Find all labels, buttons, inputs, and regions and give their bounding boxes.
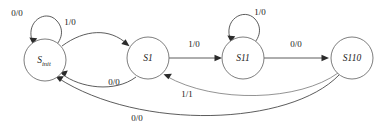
edge-label-s11-self: 1/0 [254, 7, 266, 17]
edge-path-s_init-s1 [62, 33, 127, 46]
state-node-s110[interactable]: S110 [331, 37, 373, 79]
edge-label-s_init-self: 0/0 [11, 8, 23, 18]
arrowhead-s1-s11 [215, 55, 223, 61]
state-node-s_init[interactable]: Sinit [24, 39, 66, 81]
transition-s_init-to-s1 [62, 33, 130, 47]
state-node-s11[interactable]: S11 [222, 37, 264, 79]
edge-label-s1-s11: 1/0 [188, 39, 200, 49]
diagram-canvas: Sinit S1 S11 S110 0/0 1/0 1/0 1/0 0/0 0/… [0, 0, 382, 134]
state-machine-diagram: Sinit S1 S11 S110 0/0 1/0 1/0 1/0 0/0 0/… [0, 0, 382, 134]
transition-s1-to-s_init [60, 71, 137, 87]
transition-s110-to-s_init [56, 75, 340, 116]
edge-label-s110-s_init: 0/0 [131, 113, 143, 123]
transition-s11-to-s110 [264, 55, 329, 61]
state-label-s1: S1 [143, 53, 153, 63]
edge-label-s_init-s1: 1/0 [64, 17, 76, 27]
edge-label-s110-s1: 1/1 [181, 89, 193, 99]
state-label-s110: S110 [343, 53, 362, 63]
state-label-s11: S11 [236, 53, 250, 63]
arrowhead-s11-s110 [322, 55, 330, 61]
state-node-s1[interactable]: S1 [127, 37, 169, 79]
edge-path-s1-s_init [62, 74, 136, 87]
edge-label-s1-s_init: 0/0 [108, 77, 120, 87]
edge-label-s11-s110: 0/0 [290, 39, 302, 49]
transition-s1-to-s11 [169, 55, 222, 61]
edge-path-s110-s_init [58, 75, 339, 116]
